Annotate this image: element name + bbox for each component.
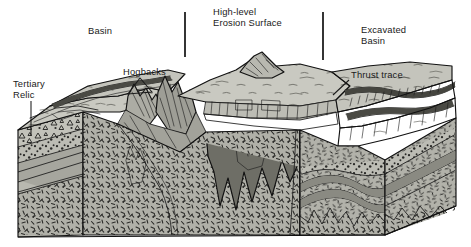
label-tertiary-relic: Relic [13, 89, 35, 100]
label-erosion-surface: Erosion Surface [213, 17, 282, 28]
label-hogbacks: Hogbacks [123, 66, 166, 77]
block-diagram-canvas: Basin High-level Erosion Surface Excavat… [0, 0, 471, 247]
label-high-level: High-level [213, 6, 256, 17]
label-tertiary: Tertiary [13, 78, 45, 89]
label-basin: Basin [88, 25, 112, 36]
label-excavated-basin: Basin [361, 35, 385, 46]
label-excavated: Excavated [361, 24, 406, 35]
label-thrust-trace: Thrust trace [351, 69, 403, 80]
block-diagram-figure: Basin High-level Erosion Surface Excavat… [0, 0, 471, 247]
